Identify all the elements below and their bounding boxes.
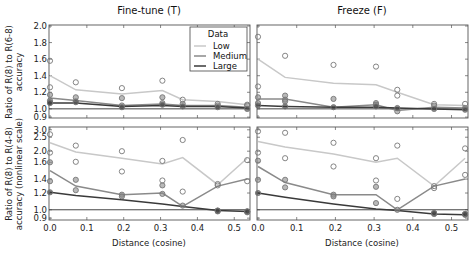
- y-tick-label: 1.6: [33, 54, 47, 64]
- data-point-large: [47, 190, 52, 195]
- data-point-medium: [255, 177, 260, 182]
- data-point-medium: [283, 99, 288, 104]
- legend-title: Data: [208, 29, 228, 39]
- x-tick-label: 0.1: [290, 223, 304, 233]
- chart-figure: Fine-tune (T) Freeze (F) Ratio of R(8) t…: [0, 0, 473, 253]
- data-point-medium: [283, 185, 288, 190]
- data-point-medium: [180, 203, 185, 208]
- data-point-medium: [160, 183, 165, 188]
- data-point-medium: [47, 179, 52, 184]
- y-tick-label: 1.4: [33, 174, 47, 184]
- data-point-medium: [373, 184, 378, 189]
- x-tick-label: 0.4: [406, 223, 420, 233]
- legend: Data Low Medium Large: [190, 27, 247, 71]
- ylabel-top-line1: Ratio of R(8) to R(6-8): [4, 25, 14, 119]
- xlabel-bottom-right: Distance (cosine): [325, 238, 399, 248]
- x-tick-label: 0.2: [329, 223, 343, 233]
- x-tick-label: 0.3: [367, 223, 381, 233]
- data-point-large: [180, 104, 185, 109]
- data-point-medium: [47, 92, 52, 97]
- y-tick-label: 1.8: [33, 38, 47, 48]
- x-tick-label: 0.4: [191, 223, 205, 233]
- data-point-medium: [283, 177, 288, 182]
- legend-label-large: Large: [213, 61, 237, 71]
- y-tick-label: 1.2: [33, 87, 47, 97]
- data-point-large: [463, 211, 468, 216]
- y-tick-label: 0.9: [33, 213, 47, 223]
- x-tick-label: 0.2: [117, 223, 131, 233]
- data-point-medium: [47, 160, 52, 165]
- x-tick-label: 0.0: [251, 223, 265, 233]
- data-point-large: [73, 100, 78, 105]
- panel-title-finetune: Fine-tune (T): [117, 5, 181, 16]
- data-point-medium: [73, 188, 78, 193]
- data-point-medium: [395, 207, 400, 212]
- data-point-medium: [160, 191, 165, 196]
- y-tick-label: 1.4: [33, 71, 47, 81]
- y-tick-label: 0.9: [33, 112, 47, 122]
- data-point-medium: [331, 96, 336, 101]
- data-point-medium: [119, 194, 124, 199]
- plot-frame: [257, 127, 468, 220]
- data-point-medium: [331, 194, 336, 199]
- ylabel-bottom-line2: accuracy (nonlinear scale): [14, 118, 24, 230]
- data-point-large: [283, 104, 288, 109]
- data-point-large: [160, 102, 165, 107]
- data-point-large: [331, 105, 336, 110]
- x-tick-label: 0.1: [80, 223, 94, 233]
- plot-frame: [49, 127, 250, 220]
- ylabel-bottom-line1: Ratio of R(8) to R(4-8): [4, 127, 14, 221]
- x-tick-label: 0.3: [154, 223, 168, 233]
- data-point-large: [215, 208, 220, 213]
- data-point-large: [255, 103, 260, 108]
- data-point-medium: [373, 201, 378, 206]
- data-point-large: [373, 104, 378, 109]
- data-point-medium: [73, 177, 78, 182]
- ylabel-top-line2: accuracy: [14, 53, 24, 91]
- data-point-medium: [119, 96, 124, 101]
- data-point-large: [119, 105, 124, 110]
- x-tick-label: 0.5: [445, 223, 459, 233]
- panel-title-freeze: Freeze (F): [337, 5, 386, 16]
- y-tick-label: 2.0: [33, 146, 47, 156]
- data-point-large: [255, 190, 260, 195]
- y-tick-label: 2.5: [33, 132, 47, 142]
- y-tick-label: 1.6: [33, 157, 47, 167]
- panel-top-right: [255, 25, 468, 118]
- data-point-medium: [255, 158, 260, 163]
- data-point-large: [215, 105, 220, 110]
- legend-label-medium: Medium: [213, 51, 247, 61]
- data-point-large: [395, 105, 400, 110]
- x-tick-label: 0.0: [43, 223, 57, 233]
- legend-label-low: Low: [213, 41, 230, 51]
- y-tick-label: 1.2: [33, 188, 47, 198]
- data-point-large: [245, 209, 250, 214]
- data-point-large: [47, 101, 52, 106]
- data-point-large: [432, 106, 437, 111]
- data-point-large: [245, 106, 250, 111]
- y-tick-label: 2.0: [33, 21, 47, 31]
- data-point-medium: [160, 95, 165, 100]
- panel-bottom-right: 0.00.10.20.30.40.5: [251, 127, 468, 233]
- xlabel-bottom-left: Distance (cosine): [112, 238, 186, 248]
- data-point-large: [463, 107, 468, 112]
- x-tick-label: 0.5: [227, 223, 241, 233]
- panel-bottom-left: 0.00.10.20.30.40.53.02.52.01.61.41.21.00…: [33, 125, 250, 233]
- data-point-large: [432, 211, 437, 216]
- data-point-medium: [255, 95, 260, 100]
